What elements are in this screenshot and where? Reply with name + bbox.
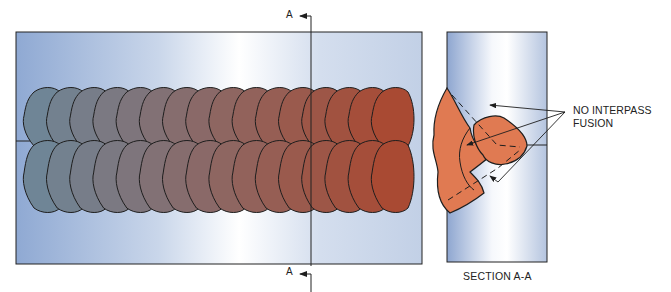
section-marker-bottom: A xyxy=(286,266,293,277)
section-marker-top: A xyxy=(286,9,293,20)
callout-line-1: NO INTERPASS xyxy=(573,104,652,117)
weld-diagram xyxy=(0,0,671,292)
weld-bead xyxy=(371,141,414,213)
callout-label: NO INTERPASS FUSION xyxy=(573,104,652,130)
weld-beads xyxy=(23,88,414,213)
section-view xyxy=(433,32,565,262)
section-title: SECTION A-A xyxy=(463,270,532,282)
plan-view xyxy=(16,32,422,264)
callout-line-2: FUSION xyxy=(573,117,652,130)
